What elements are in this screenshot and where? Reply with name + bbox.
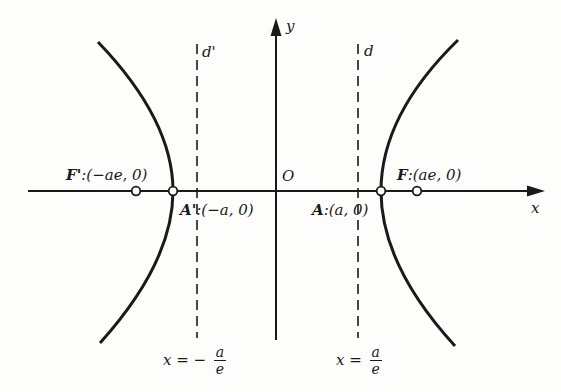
diagram-graphics (0, 0, 561, 392)
left-directrix-equation: x = − a e (163, 345, 226, 376)
y-axis-label: y (286, 19, 294, 34)
right-directrix-eq-lhs: x = (336, 351, 362, 369)
hyperbola-diagram: y x O d' d F':(−ae, 0) F:(ae, 0) A':(−a,… (0, 0, 561, 392)
origin-label: O (282, 169, 294, 184)
left-directrix-fraction: a e (214, 345, 226, 376)
left-vertex-coords: :(−a, 0) (196, 201, 253, 219)
left-focus-point (132, 187, 141, 196)
right-directrix-fraction: a e (370, 345, 382, 376)
left-vertex-name: A' (180, 201, 196, 219)
left-vertex-label: A':(−a, 0) (180, 203, 254, 218)
right-vertex-point (377, 187, 386, 196)
left-directrix-label: d' (202, 45, 216, 60)
right-focus-name: F (397, 166, 408, 184)
left-focus-name: F' (66, 166, 81, 184)
right-fraction-denominator: e (370, 362, 382, 376)
left-focus-label: F':(−ae, 0) (66, 168, 147, 183)
right-focus-coords: :(ae, 0) (408, 166, 462, 184)
right-focus-label: F:(ae, 0) (397, 168, 461, 183)
left-focus-coords: :(−ae, 0) (81, 166, 147, 184)
right-directrix-equation: x = a e (336, 345, 382, 376)
right-focus-point (413, 187, 422, 196)
left-vertex-point (169, 187, 178, 196)
right-vertex-label: A:(a, 0) (312, 203, 368, 218)
left-directrix-eq-lhs: x = (163, 351, 189, 369)
x-axis-arrow-icon (527, 186, 545, 197)
left-directrix-eq-sign: − (194, 351, 207, 369)
right-vertex-coords: :(a, 0) (324, 201, 369, 219)
right-fraction-numerator: a (370, 345, 382, 359)
left-fraction-numerator: a (214, 345, 226, 359)
right-directrix-label: d (364, 44, 374, 59)
left-fraction-denominator: e (214, 362, 226, 376)
y-axis-arrow-icon (271, 18, 282, 36)
right-vertex-name: A (312, 201, 324, 219)
x-axis-label: x (531, 201, 539, 216)
